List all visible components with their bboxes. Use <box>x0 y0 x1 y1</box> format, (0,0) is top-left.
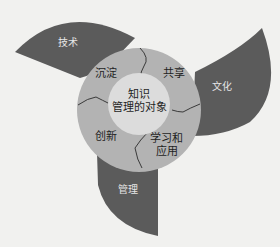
center-label-line1: 知识 <box>107 88 171 101</box>
knowledge-management-diagram: 知识 管理的对象 沉淀 共享 学习和 应用 创新 技术 文化 管理 <box>0 0 280 247</box>
ring-label-learn-apply: 学习和 应用 <box>150 132 183 158</box>
center-label-line2: 管理的对象 <box>107 101 171 114</box>
diagram-graphic <box>0 0 280 247</box>
petal-label-culture: 文化 <box>212 80 232 93</box>
ring-label-sediment: 沉淀 <box>95 67 117 80</box>
petal-label-technology: 技术 <box>58 36 78 49</box>
ring-label-learn-apply-line2: 应用 <box>150 145 183 158</box>
ring-label-innovation: 创新 <box>95 130 117 143</box>
ring-label-share: 共享 <box>163 67 185 80</box>
center-label: 知识 管理的对象 <box>107 88 171 114</box>
petal-label-management: 管理 <box>118 183 138 196</box>
ring-label-learn-apply-line1: 学习和 <box>150 132 183 145</box>
